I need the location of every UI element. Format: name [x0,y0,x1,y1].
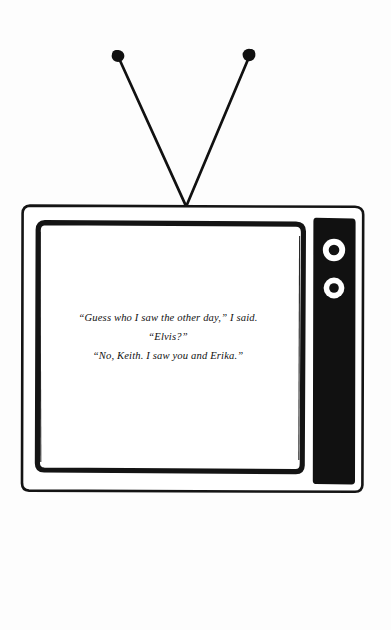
tuner-knob-upper-center [329,245,340,256]
antenna-tip-left-blob [112,50,121,59]
dialogue-line-1: “Guess who I saw the other day,” I said. [44,308,292,327]
volume-knob-lower-center [329,283,339,293]
on-screen-dialogue: “Guess who I saw the other day,” I said.… [44,308,292,365]
dialogue-line-2: “Elvis?” [44,327,292,346]
tuner-knob-upper[interactable] [323,239,345,261]
illustration-canvas: “Guess who I saw the other day,” I said.… [0,0,391,630]
dialogue-line-3: “No, Keith. I saw you and Erika.” [44,346,292,365]
volume-knob-lower[interactable] [324,278,345,299]
antenna-tip-right-blob [246,49,255,58]
